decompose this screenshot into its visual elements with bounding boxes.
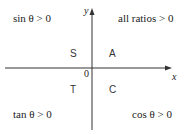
- origin-label: 0: [84, 68, 89, 79]
- x-axis-label: x: [172, 71, 176, 82]
- y-axis-arrow-icon: [90, 8, 95, 15]
- q2-rule: sin θ > 0: [13, 12, 51, 24]
- y-axis-label: y: [84, 5, 88, 16]
- q4-rule: cos θ > 0: [132, 108, 172, 120]
- q2-letter: S: [70, 48, 77, 59]
- q4-letter: C: [109, 84, 116, 95]
- q1-rule: all ratios > 0: [118, 12, 173, 24]
- q1-letter: A: [109, 48, 116, 59]
- q3-rule: tan θ > 0: [13, 108, 52, 120]
- q3-letter: T: [70, 84, 76, 95]
- x-axis-arrow-icon: [165, 66, 172, 71]
